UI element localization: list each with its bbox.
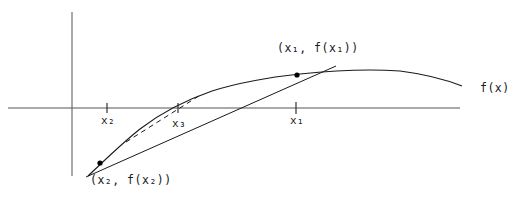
label-point-x2: (x₂, f(x₂)) (90, 175, 172, 187)
label-point-x1: (x₁, f(x₁)) (277, 43, 359, 55)
axis-label-x2: x₂ (101, 115, 115, 126)
function-label: f(x) (480, 83, 510, 95)
axis-label-x3: x₃ (172, 118, 186, 129)
point-x2-marker (97, 160, 102, 165)
diagram-canvas (0, 0, 524, 201)
axis-label-x1: x₁ (290, 115, 304, 126)
secant-method-diagram: (x₁, f(x₁)) (x₂, f(x₂)) x₁ x₂ x₃ f(x) (0, 0, 524, 201)
tangent-line-dashed (126, 94, 202, 142)
point-x1-marker (294, 72, 299, 77)
function-curve (88, 70, 462, 176)
